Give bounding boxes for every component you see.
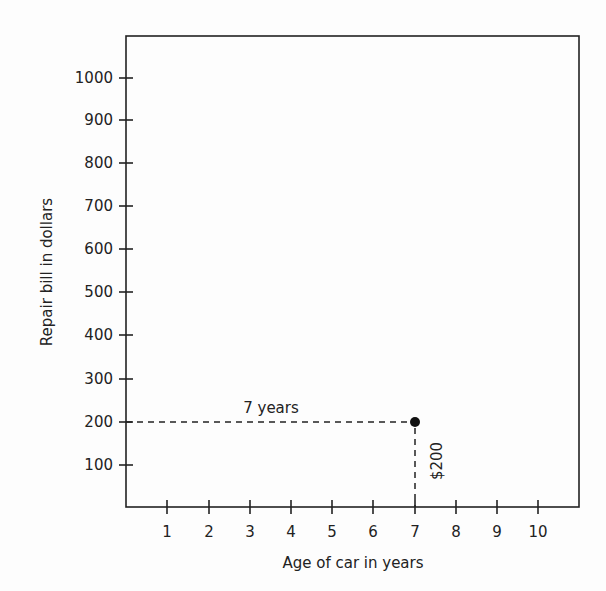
y-axis-tick-labels: 1000 900 800 700 600 500 400 300 200 100: [75, 69, 113, 474]
y-tick-label: 900: [84, 111, 113, 129]
x-tick-label: 6: [368, 523, 378, 541]
x-tick-label: 9: [492, 523, 502, 541]
dollars-annotation: $200: [428, 442, 446, 480]
y-tick-label: 100: [84, 456, 113, 474]
y-tick-label: 400: [84, 326, 113, 344]
y-tick-label: 300: [84, 370, 113, 388]
y-tick-label: 200: [84, 413, 113, 431]
chart: 1000 900 800 700 600 500 400 300 200 100…: [0, 0, 606, 591]
y-axis-title: Repair bill in dollars: [38, 198, 56, 346]
data-point: [410, 417, 420, 427]
x-tick-label: 4: [286, 523, 296, 541]
x-tick-label: 5: [327, 523, 337, 541]
y-tick-label: 1000: [75, 69, 113, 87]
y-tick-label: 600: [84, 240, 113, 258]
y-tick-label: 800: [84, 154, 113, 172]
y-tick-label: 500: [84, 283, 113, 301]
x-axis-tick-labels: 1 2 3 4 5 6 7 8 9 10: [162, 523, 547, 541]
x-tick-label: 7: [410, 523, 420, 541]
y-tick-label: 700: [84, 197, 113, 215]
x-axis-title: Age of car in years: [282, 554, 423, 572]
x-tick-label: 1: [162, 523, 172, 541]
plot-frame: [126, 36, 579, 507]
x-tick-label: 8: [451, 523, 461, 541]
x-tick-label: 3: [245, 523, 255, 541]
x-tick-label: 2: [204, 523, 214, 541]
x-tick-label: 10: [528, 523, 547, 541]
years-annotation: 7 years: [243, 399, 299, 417]
